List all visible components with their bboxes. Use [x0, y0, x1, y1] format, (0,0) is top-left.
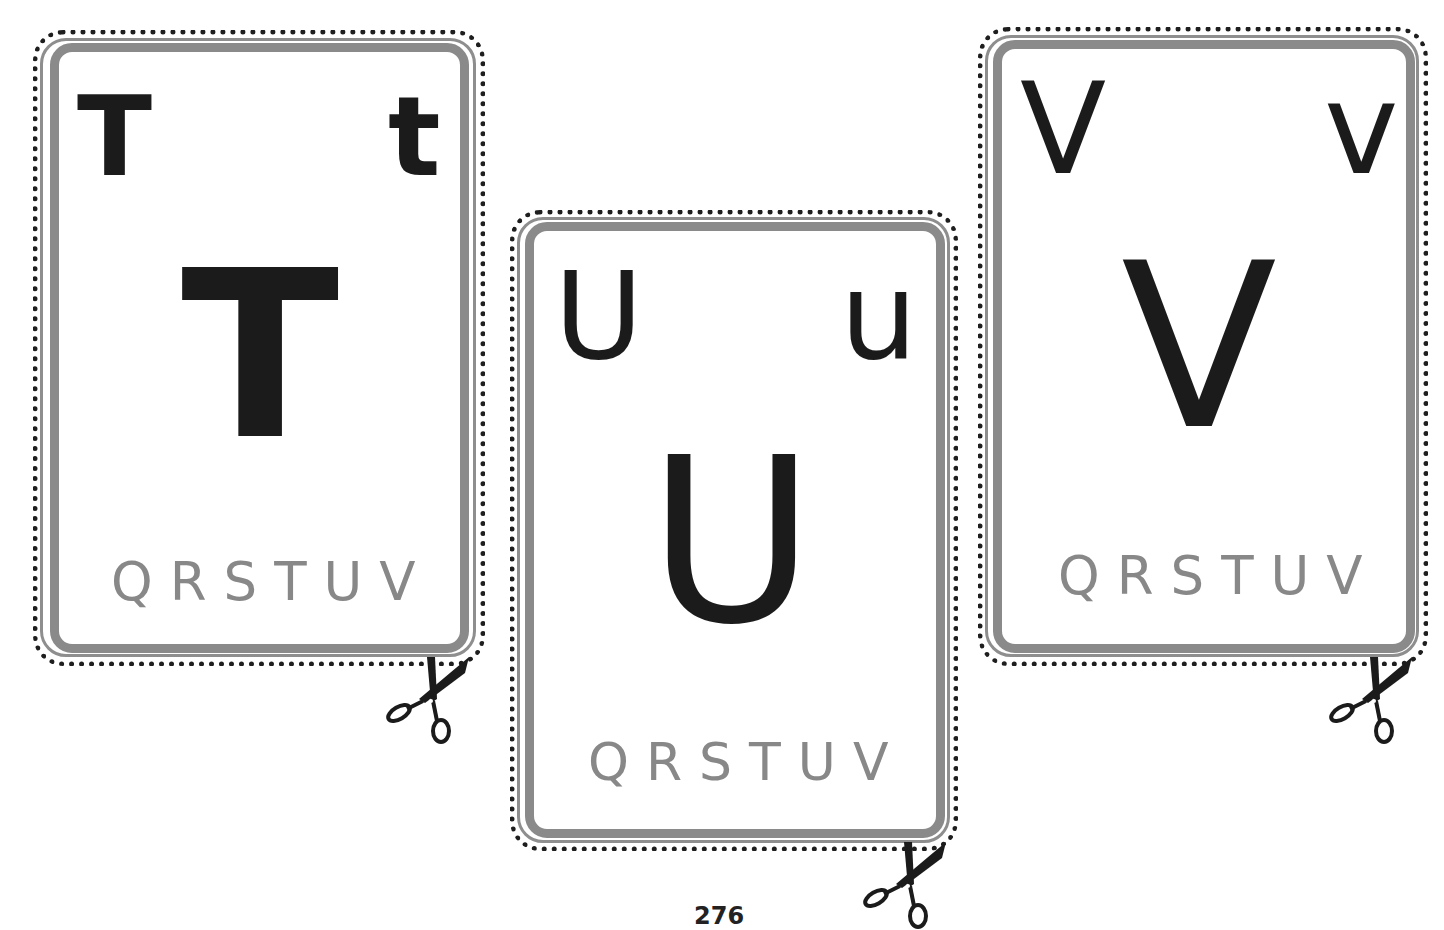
- scissors-icon: [1328, 655, 1418, 745]
- flashcard-v: V v V QRSTUV: [978, 27, 1428, 666]
- letter-sequence: QRSTUV: [111, 555, 433, 608]
- big-letter: U: [648, 428, 815, 656]
- big-letter: T: [181, 240, 339, 472]
- flashcard-u: U u U QRSTUV: [510, 210, 958, 851]
- flashcard-t: T t T QRSTUV: [33, 30, 485, 666]
- letter-sequence: QRSTUV: [1058, 549, 1380, 602]
- lowercase-corner-letter: t: [388, 82, 441, 192]
- page-number: 276: [694, 904, 744, 928]
- uppercase-corner-letter: T: [77, 82, 152, 192]
- uppercase-corner-letter: V: [1020, 67, 1106, 193]
- uppercase-corner-letter: U: [554, 255, 643, 377]
- letter-sequence: QRSTUV: [588, 736, 905, 788]
- scissors-icon: [385, 655, 475, 745]
- lowercase-corner-letter: v: [1324, 67, 1399, 193]
- scissors-icon: [862, 840, 952, 930]
- big-letter: V: [1121, 233, 1277, 461]
- lowercase-corner-letter: u: [840, 255, 917, 377]
